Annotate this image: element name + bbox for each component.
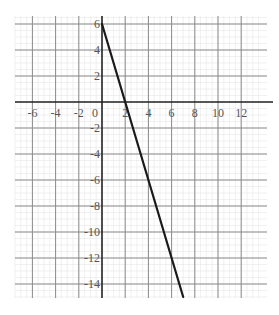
x-tick-label: 8 [192,106,198,120]
y-tick-label: -12 [84,251,100,265]
x-tick-label: 6 [169,106,175,120]
x-tick-label: 12 [235,106,247,120]
y-tick-label: -6 [90,173,100,187]
y-tick-label: -4 [90,147,100,161]
y-tick-label: -10 [84,225,100,239]
axes [15,16,273,298]
x-tick-label: 0 [92,106,98,120]
y-tick-label: -2 [90,121,100,135]
x-tick-label: 10 [212,106,224,120]
y-tick-label: 2 [94,69,100,83]
y-tick-label: -14 [84,277,100,291]
y-tick-label: -8 [90,199,100,213]
x-tick-label: 4 [145,106,151,120]
x-tick-label: -6 [27,106,37,120]
line-chart: -6-4-2024681012642-2-4-6-8-10-12-14 [0,0,279,315]
y-tick-label: 4 [94,43,100,57]
x-tick-label: -4 [51,106,61,120]
y-tick-label: 6 [94,17,100,31]
x-tick-label: -2 [74,106,84,120]
